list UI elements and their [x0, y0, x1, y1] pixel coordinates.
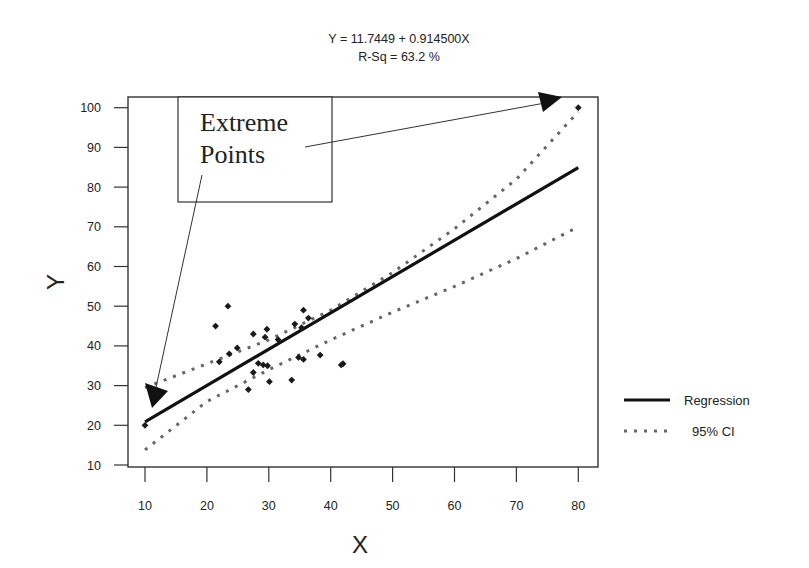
legend-regression-label: Regression — [684, 393, 750, 408]
data-point — [212, 323, 219, 330]
data-point — [575, 104, 582, 111]
y-tick-label: 10 — [87, 459, 101, 473]
arrow-to-high-point — [305, 103, 545, 147]
y-tick-label: 30 — [87, 379, 101, 393]
data-point — [266, 378, 273, 385]
data-point — [225, 303, 232, 310]
data-point — [226, 350, 233, 357]
data-point — [250, 331, 257, 338]
x-tick-label: 20 — [200, 499, 214, 513]
regression-line — [145, 168, 578, 422]
y-tick-label: 80 — [87, 181, 101, 195]
legend: Regression 95% CI — [624, 393, 750, 439]
x-tick-label: 30 — [262, 499, 276, 513]
callout-line1: Extreme — [200, 108, 288, 137]
y-tick-label: 60 — [87, 260, 101, 274]
data-point — [300, 307, 307, 314]
y-tick-label: 70 — [87, 220, 101, 234]
callout-line2: Points — [200, 140, 265, 169]
data-point — [317, 352, 324, 359]
regression-chart: Y = 11.7449 + 0.914500X R-Sq = 63.2 % 10… — [0, 0, 809, 568]
chart-title: Y = 11.7449 + 0.914500X — [328, 32, 470, 46]
extreme-points-callout: Extreme Points — [178, 97, 332, 202]
data-point — [250, 369, 257, 376]
y-tick-label: 100 — [80, 101, 101, 115]
y-tick-label: 40 — [87, 339, 101, 353]
x-tick-label: 60 — [448, 499, 462, 513]
ci-lower-line — [145, 227, 578, 450]
data-point — [305, 315, 312, 322]
data-point — [264, 362, 271, 369]
data-point — [291, 321, 298, 328]
legend-ci-label: 95% CI — [692, 424, 735, 439]
x-axis-label: X — [352, 531, 368, 558]
y-tick-label: 90 — [87, 141, 101, 155]
arrow-to-low-point — [155, 175, 202, 392]
y-axis: 102030405060708090100 — [80, 101, 128, 472]
data-point — [142, 422, 149, 429]
y-tick-label: 50 — [87, 300, 101, 314]
chart-subtitle: R-Sq = 63.2 % — [358, 50, 440, 64]
data-point — [264, 326, 271, 333]
y-tick-label: 20 — [87, 419, 101, 433]
x-tick-label: 80 — [571, 499, 585, 513]
x-axis: 1020304050607080 — [138, 467, 585, 513]
x-tick-label: 50 — [386, 499, 400, 513]
y-axis-label: Y — [42, 274, 69, 290]
data-point — [288, 377, 295, 384]
x-tick-label: 10 — [138, 499, 152, 513]
arrowhead-high-icon — [538, 92, 562, 112]
x-tick-label: 40 — [324, 499, 338, 513]
data-point — [245, 386, 252, 393]
x-tick-label: 70 — [509, 499, 523, 513]
